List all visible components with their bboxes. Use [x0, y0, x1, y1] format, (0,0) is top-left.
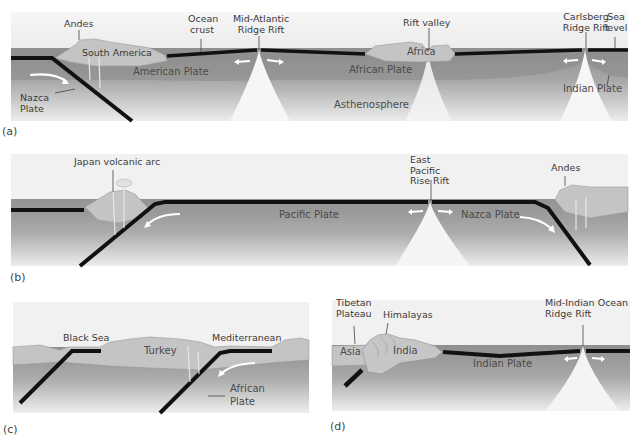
panel-a-tag: (a): [2, 125, 17, 138]
label-south-america: South America: [82, 48, 152, 59]
label-black-sea: Black Sea: [63, 333, 109, 344]
panel-c-tag: (c): [3, 423, 18, 436]
panel-d-tag: (d): [330, 420, 346, 433]
label-pacific-plate: Pacific Plate: [279, 210, 339, 221]
label-mid-indian-ocean-ridge-rift: Mid-Indian Ocean Ridge Rift: [545, 298, 630, 319]
label-rift-valley: Rift valley: [403, 18, 450, 29]
label-nazca-plate: Nazca Plate: [20, 93, 50, 114]
label-african-plate: African Plate: [349, 65, 412, 76]
panel-d-himalaya-cross-section: Tibetan Plateau Himalayas Mid-Indian Oce…: [320, 290, 640, 444]
panel-c-turkey-cross-section: Black Sea Mediterranean Turkey African P…: [0, 290, 320, 444]
panel-a-mid-atlantic-cross-section: Andes South America Ocean crust Mid-Atla…: [0, 0, 640, 140]
label-africa: Africa: [407, 47, 436, 58]
label-mid-atlantic-ridge-rift: Mid-Atlantic Ridge Rift: [230, 14, 292, 35]
label-mediterranean: Mediterranean: [212, 333, 281, 344]
label-sea-level: Sea level: [604, 12, 628, 33]
label-african-plate: African Plate: [230, 382, 264, 408]
label-ocean-crust: Ocean crust: [188, 14, 216, 35]
label-american-plate: American Plate: [133, 67, 209, 78]
label-andes: Andes: [551, 163, 580, 174]
label-asia: Asia: [340, 347, 361, 358]
label-indian-plate: Indian Plate: [473, 359, 532, 370]
label-indian-plate: Indian Plate: [563, 84, 622, 95]
label-himalayas: Himalayas: [383, 310, 433, 321]
panel-a-illustration: [0, 0, 640, 140]
panel-b-tag: (b): [10, 271, 26, 284]
label-asthenosphere: Asthenosphere: [334, 100, 409, 111]
label-tibetan-plateau: Tibetan Plateau: [336, 298, 368, 319]
label-japan-volcanic-arc: Japan volcanic arc: [74, 157, 160, 168]
panel-c-illustration: [0, 290, 320, 444]
panel-b-pacific-cross-section: Japan volcanic arc East Pacific Rise Rif…: [0, 140, 640, 290]
label-east-pacific-rise-rift: East Pacific Rise Rift: [410, 155, 462, 187]
label-andes: Andes: [64, 19, 93, 30]
label-nazca-plate: Nazca Plate: [461, 210, 520, 221]
label-turkey: Turkey: [144, 346, 177, 357]
label-india: India: [393, 346, 418, 357]
